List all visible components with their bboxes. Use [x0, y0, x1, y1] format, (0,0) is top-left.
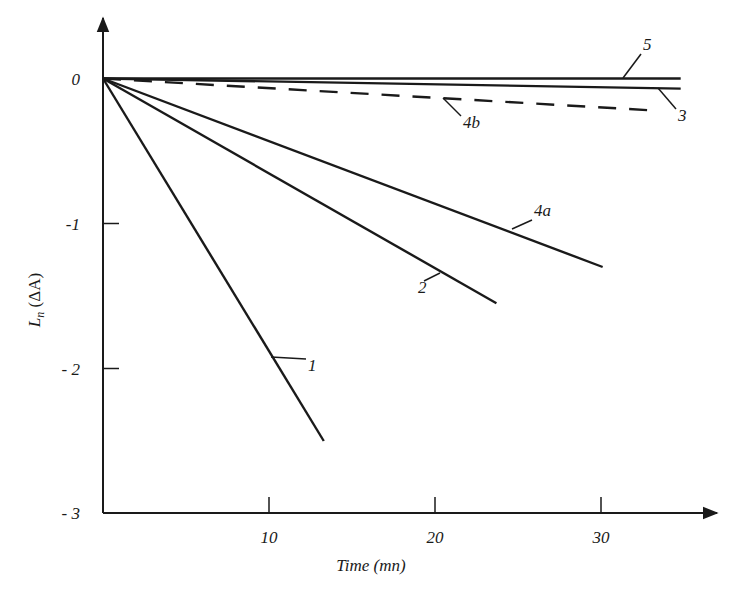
series-line-4a — [103, 79, 603, 268]
series-line-3 — [103, 79, 681, 89]
callout-leader — [271, 357, 306, 359]
callout-leader — [512, 220, 532, 229]
x-tick-label: 20 — [427, 528, 445, 547]
series-line-2 — [103, 79, 496, 304]
svg-text:Ln (ΔA): Ln (ΔA) — [25, 273, 47, 328]
series-label-2: 2 — [418, 278, 427, 297]
y-tick-label: -1 — [66, 215, 80, 234]
line-chart: 1020300-1- 2- 3 1234a4b5 Time (mn) Ln (Δ… — [0, 0, 736, 596]
x-axis-label: Time (mn) — [336, 556, 406, 575]
series-label-4a: 4a — [534, 201, 551, 220]
callout-leader — [623, 54, 641, 78]
y-tick-label: - 3 — [62, 504, 80, 523]
series-label-3: 3 — [677, 106, 687, 125]
axis-ticks: 1020300-1- 2- 3 — [62, 70, 610, 548]
series-label-4b: 4b — [463, 113, 480, 132]
callout-leader — [443, 98, 461, 116]
y-tick-label: 0 — [72, 70, 81, 89]
callout-leader — [658, 88, 676, 109]
chart-figure: 1020300-1- 2- 3 1234a4b5 Time (mn) Ln (Δ… — [0, 0, 736, 596]
series-label-5: 5 — [643, 35, 652, 54]
y-axis-label: Ln (ΔA) — [25, 273, 47, 328]
series-label-1: 1 — [308, 356, 317, 375]
x-tick-label: 10 — [261, 528, 279, 547]
y-tick-label: - 2 — [62, 360, 81, 379]
x-tick-label: 30 — [592, 528, 611, 547]
series-line-1 — [103, 79, 324, 442]
series-lines — [103, 79, 681, 442]
